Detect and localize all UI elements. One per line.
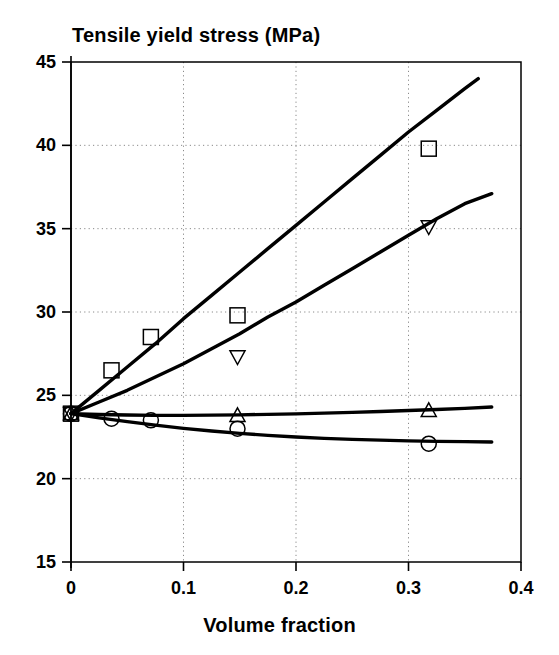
x-tick-label-0.4: 0.4	[508, 578, 533, 599]
x-tick-label-0.1: 0.1	[171, 578, 196, 599]
marker-triangle-down	[230, 351, 245, 365]
y-tick-label-20: 20	[36, 468, 56, 489]
y-tick-label-35: 35	[36, 218, 56, 239]
chart-figure: Tensile yield stress (MPa) 1520253035404…	[0, 0, 559, 655]
marker-square	[230, 308, 245, 323]
curve-lower-curve-circles	[71, 414, 492, 442]
curve-second-curve-down-triangles	[71, 194, 492, 414]
data-markers	[64, 141, 437, 451]
marker-circle	[421, 436, 436, 451]
x-tick-label-0: 0	[66, 578, 76, 599]
y-tick-label-25: 25	[36, 385, 56, 406]
axis-ticks	[62, 62, 521, 571]
y-tick-label-45: 45	[36, 52, 56, 73]
x-axis-label: Volume fraction	[0, 614, 559, 637]
curve-third-curve-up-triangles	[71, 407, 492, 415]
y-tick-label-40: 40	[36, 135, 56, 156]
x-tick-label-0.2: 0.2	[283, 578, 308, 599]
marker-square	[421, 141, 436, 156]
gridlines	[71, 62, 521, 562]
data-curves	[71, 79, 492, 442]
y-tick-label-30: 30	[36, 302, 56, 323]
y-tick-label-15: 15	[36, 552, 56, 573]
x-tick-label-0.3: 0.3	[396, 578, 421, 599]
plot-canvas	[0, 0, 559, 655]
curve-upper-curve-squares	[71, 79, 478, 414]
